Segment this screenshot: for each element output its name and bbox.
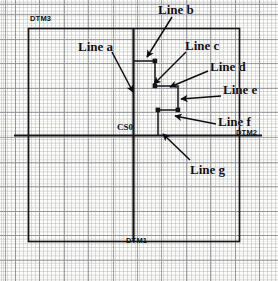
leader-line-d <box>170 71 208 87</box>
diagram-canvas: DTM3 DTM1 DTM2 CS0 Line a Line b Line c … <box>0 0 278 281</box>
leader-line-b <box>147 17 172 57</box>
centerline-label-cs0: CS0 <box>117 122 133 132</box>
stepped-profile-path <box>133 61 178 135</box>
datum-label-dtm1: DTM1 <box>126 236 147 245</box>
datum-label-dtm3: DTM3 <box>30 14 51 23</box>
callout-label-line-g: Line g <box>190 162 225 178</box>
callout-label-line-e: Line e <box>223 82 257 98</box>
callout-label-line-f: Line f <box>218 114 251 130</box>
callout-label-line-d: Line d <box>210 59 246 75</box>
leader-line-c <box>154 52 186 84</box>
leader-line-a <box>112 52 133 92</box>
callout-label-line-c: Line c <box>185 38 219 54</box>
leader-line-e <box>181 96 221 99</box>
leader-line-f <box>175 116 216 124</box>
leader-line-g <box>163 134 190 160</box>
callout-label-line-a: Line a <box>78 39 113 55</box>
callout-label-line-b: Line b <box>158 2 194 18</box>
